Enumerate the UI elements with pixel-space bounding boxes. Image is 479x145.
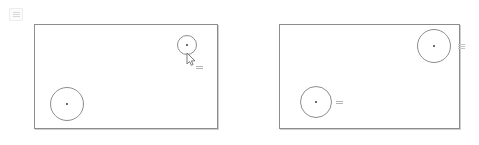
circle-small-right[interactable] [417, 29, 451, 63]
chip-line-1 [336, 101, 343, 102]
screenshot-stage [0, 0, 479, 145]
circle-center-dot [186, 44, 188, 46]
canvas-panel-right [240, 0, 479, 145]
chip-line-1 [458, 44, 465, 45]
chip-line-1 [196, 66, 203, 67]
circle-center-dot [433, 45, 435, 47]
tooltip-chip-left [196, 64, 203, 70]
chip-line-2 [336, 103, 343, 104]
circle-small-left[interactable] [177, 35, 197, 55]
circle-center-dot [66, 103, 68, 105]
canvas-panel-left [0, 0, 239, 145]
circle-large-left[interactable] [50, 87, 84, 121]
chip-line-2 [458, 46, 465, 47]
circle-large-right[interactable] [300, 86, 332, 118]
chip-line-2 [196, 68, 203, 69]
label-chip-right [336, 99, 343, 105]
edge-handle-chip-right[interactable] [458, 43, 465, 49]
circle-center-dot [315, 101, 317, 103]
chip-line-3 [458, 48, 465, 49]
